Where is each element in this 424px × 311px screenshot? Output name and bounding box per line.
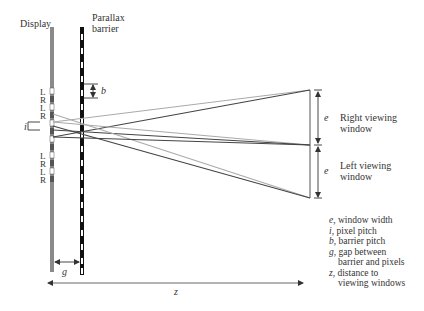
barrier-label-line2: barrier xyxy=(92,23,119,34)
window-width-arrows xyxy=(314,90,322,198)
legend-item-z: z, distance to xyxy=(329,268,405,279)
display-panel xyxy=(50,27,54,272)
z-label: z xyxy=(174,286,178,297)
g-label: g xyxy=(62,266,67,277)
e-bottom-label: e xyxy=(324,165,328,176)
legend-item-b: b, barrier pitch xyxy=(329,236,405,247)
barrier-pitch-arrow xyxy=(84,84,98,98)
left-window-label-line1: Left viewing xyxy=(340,160,391,171)
parallax-barrier xyxy=(80,27,84,275)
display-label: Display xyxy=(20,18,51,29)
legend-item-g: g, gap between xyxy=(329,247,405,258)
b-label: b xyxy=(101,85,106,96)
pixel-labels-bottom: L R L R xyxy=(40,152,46,184)
left-window-label-line2: window xyxy=(340,171,372,182)
i-label: i xyxy=(24,121,27,132)
legend-item-i: i, pixel pitch xyxy=(329,226,405,237)
legend-item-g-cont: barrier and pixels xyxy=(329,257,405,268)
light-rays xyxy=(53,90,310,198)
barrier-label-line1: Parallax xyxy=(92,12,125,23)
pixel-labels-top: L R L R xyxy=(40,88,46,120)
legend: e, window width i, pixel pitch b, barrie… xyxy=(329,215,405,289)
right-window-label-line1: Right viewing xyxy=(340,112,397,123)
legend-item-e: e, window width xyxy=(329,215,405,226)
right-window-label-line2: window xyxy=(340,123,372,134)
e-top-label: e xyxy=(324,112,328,123)
legend-item-z-cont: viewing windows xyxy=(329,278,405,289)
pixel-pitch-marker xyxy=(28,122,40,130)
